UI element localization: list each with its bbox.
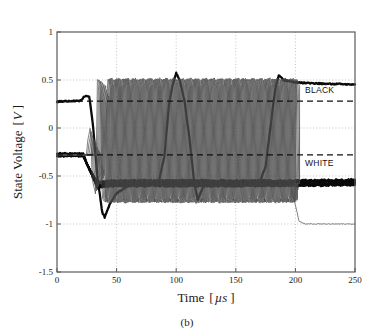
x-tick-label: 200 xyxy=(289,275,303,285)
y-tick-label: -1.5 xyxy=(39,267,54,277)
x-axis-unit: µs xyxy=(215,290,228,305)
x-tick-label: 100 xyxy=(169,275,183,285)
y-tick-label: 0.5 xyxy=(42,75,54,85)
x-axis-title-text: Time xyxy=(177,290,204,305)
x-axis-title: Time[µs] xyxy=(177,290,234,305)
svg-text:State Voltage[V]: State Voltage[V] xyxy=(10,105,25,199)
y-tick-label: 0 xyxy=(49,123,54,133)
figure-caption: (b) xyxy=(181,316,194,329)
chart-svg: 05010015020025010.50-0.5-1-1.5 BLACKWHIT… xyxy=(0,0,374,336)
y-tick-label: -1 xyxy=(46,219,54,229)
x-tick-label: 150 xyxy=(229,275,243,285)
white-threshold-annotation: WHITE xyxy=(305,158,334,168)
y-tick-label: 1 xyxy=(49,27,54,37)
x-tick-label: 250 xyxy=(348,275,362,285)
svg-text:Time[µs]: Time[µs] xyxy=(177,290,234,305)
black-threshold-annotation: BLACK xyxy=(305,85,334,95)
figure-container: 05010015020025010.50-0.5-1-1.5 BLACKWHIT… xyxy=(0,0,374,336)
y-axis-title: State Voltage[V] xyxy=(10,105,25,199)
y-axis-title-text: State Voltage xyxy=(10,130,25,199)
x-tick-label: 50 xyxy=(112,275,122,285)
x-tick-label: 0 xyxy=(55,275,60,285)
y-axis-unit: V xyxy=(10,110,25,120)
y-tick-label: -0.5 xyxy=(39,171,54,181)
